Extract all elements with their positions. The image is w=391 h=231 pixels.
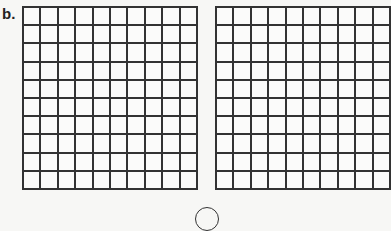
grid-cell: [374, 154, 391, 172]
grid-cell: [217, 26, 234, 44]
grid-cell: [41, 135, 58, 153]
grid-cell: [94, 81, 111, 99]
grid-cell: [94, 63, 111, 81]
grid-cell: [217, 8, 234, 26]
hundred-grid-right: [215, 6, 391, 190]
problem-label: b.: [2, 5, 15, 22]
grid-cell: [181, 172, 198, 190]
grid-cell: [321, 81, 338, 99]
grid-cell: [234, 63, 251, 81]
grid-cell: [59, 63, 76, 81]
grid-cell: [217, 81, 234, 99]
grid-cell: [146, 117, 163, 135]
grid-cell: [304, 117, 321, 135]
grid-cell: [269, 81, 286, 99]
grid-cell: [304, 172, 321, 190]
grid-cell: [24, 135, 41, 153]
grid-cell: [374, 172, 391, 190]
answer-circle: [195, 207, 219, 231]
grid-cell: [374, 44, 391, 62]
grid-cell: [24, 154, 41, 172]
grid-cell: [111, 99, 128, 117]
grid-cell: [321, 135, 338, 153]
grid-cell: [128, 26, 145, 44]
grid-cell: [163, 26, 180, 44]
grid-cell: [94, 154, 111, 172]
grid-cell: [252, 81, 269, 99]
grid-cell: [321, 172, 338, 190]
grid-cell: [59, 26, 76, 44]
grid-cell: [321, 63, 338, 81]
grid-cell: [76, 172, 93, 190]
grid-cell: [269, 172, 286, 190]
grid-cell: [76, 135, 93, 153]
grid-cell: [128, 99, 145, 117]
grid-cell: [304, 8, 321, 26]
grid-cell: [181, 8, 198, 26]
grid-cell: [287, 81, 304, 99]
grid-cell: [24, 63, 41, 81]
grid-cell: [234, 81, 251, 99]
grid-cell: [321, 99, 338, 117]
grid-cell: [321, 8, 338, 26]
grid-cell: [339, 81, 356, 99]
grid-cell: [269, 117, 286, 135]
grid-cell: [287, 135, 304, 153]
grid-cell: [252, 44, 269, 62]
hundred-grid-left: [22, 6, 198, 190]
grid-cell: [41, 26, 58, 44]
grid-cell: [339, 172, 356, 190]
grid-cell: [269, 135, 286, 153]
grid-cell: [287, 26, 304, 44]
grid-cell: [269, 63, 286, 81]
grid-cell: [128, 154, 145, 172]
grid-cell: [41, 99, 58, 117]
grid-cell: [41, 8, 58, 26]
grid-cell: [234, 135, 251, 153]
grid-cell: [163, 99, 180, 117]
grid-cell: [163, 8, 180, 26]
grid-cell: [41, 117, 58, 135]
grid-cell: [339, 135, 356, 153]
grid-cell: [111, 63, 128, 81]
grid-cell: [181, 63, 198, 81]
grid-cell: [374, 135, 391, 153]
grid-cell: [252, 135, 269, 153]
grid-cell: [356, 63, 373, 81]
grid-cell: [374, 26, 391, 44]
grid-cell: [24, 81, 41, 99]
grid-cell: [59, 8, 76, 26]
grid-cell: [356, 81, 373, 99]
grid-cell: [111, 26, 128, 44]
grid-cell: [76, 81, 93, 99]
grid-cell: [181, 81, 198, 99]
grid-cell: [24, 99, 41, 117]
grid-cell: [181, 135, 198, 153]
grid-cell: [59, 81, 76, 99]
grid-cell: [59, 135, 76, 153]
grid-cell: [356, 154, 373, 172]
grid-cell: [41, 81, 58, 99]
grid-cell: [94, 135, 111, 153]
grid-cell: [24, 117, 41, 135]
grid-cell: [41, 63, 58, 81]
grid-cell: [146, 81, 163, 99]
grid-cell: [321, 44, 338, 62]
grid-cell: [252, 117, 269, 135]
grid-cell: [128, 135, 145, 153]
grid-cell: [287, 8, 304, 26]
grid-cell: [374, 63, 391, 81]
grid-cell: [287, 63, 304, 81]
grid-cell: [59, 117, 76, 135]
grid-cell: [304, 63, 321, 81]
grid-cell: [181, 117, 198, 135]
grid-cell: [128, 44, 145, 62]
grid-cell: [304, 154, 321, 172]
grid-cell: [356, 135, 373, 153]
grid-cell: [94, 8, 111, 26]
grid-cell: [128, 172, 145, 190]
grid-cell: [59, 44, 76, 62]
grid-cell: [356, 99, 373, 117]
grid-cell: [163, 63, 180, 81]
grid-cell: [339, 26, 356, 44]
